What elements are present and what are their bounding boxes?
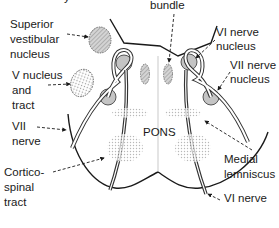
label-vi-nerve-nucleus: VI nerve nucleus bbox=[216, 25, 259, 53]
label-vii-nerve-nucleus: VII nerve nucleus bbox=[230, 58, 276, 86]
corticospinal-left bbox=[107, 134, 143, 162]
medial-lemniscus-right bbox=[165, 108, 201, 118]
medial-lemniscus-left bbox=[112, 108, 148, 118]
medial-bundle-left bbox=[141, 64, 150, 84]
medial-bundle-right bbox=[164, 64, 173, 84]
leader-corticospinal bbox=[53, 158, 104, 172]
label-vi-nerve: VI nerve bbox=[224, 191, 267, 205]
superior-vestibular-nucleus bbox=[89, 27, 111, 53]
label-bundle: bundle bbox=[150, 0, 185, 12]
label-pons: PONS bbox=[143, 125, 176, 139]
leader-vi-nerve bbox=[208, 194, 220, 200]
label-vii-nerve: VII nerve bbox=[12, 119, 41, 149]
leader-vii-nucleus bbox=[218, 72, 230, 90]
label-corticospinal-tract: Cortico- spinal tract bbox=[4, 165, 44, 210]
label-v-nucleus-and-tract: V nucleus and tract bbox=[12, 68, 63, 113]
leader-vii-nerve bbox=[37, 127, 66, 130]
v-nucleus-and-tract bbox=[67, 66, 97, 100]
leader-superior-vestibular bbox=[67, 34, 88, 37]
leader-bundle bbox=[169, 14, 174, 62]
corticospinal-right bbox=[175, 134, 211, 162]
label-medial-lemniscus: Medial lemniscus bbox=[224, 152, 275, 182]
label-top-partial: y bbox=[64, 0, 70, 4]
vi-nerve-right bbox=[186, 70, 206, 194]
leader-vi-nucleus bbox=[196, 40, 215, 58]
label-superior-vestibular-nucleus: Superior vestibular nucleus bbox=[10, 17, 59, 62]
